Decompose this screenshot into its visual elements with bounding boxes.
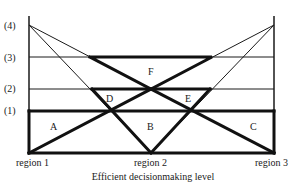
- area-label-e: E: [185, 93, 191, 104]
- level-label-2: (2): [4, 83, 16, 95]
- region-label-1: region 1: [16, 157, 49, 168]
- region-label-3: region 3: [255, 157, 288, 168]
- area-label-f: F: [148, 66, 154, 77]
- level-label-3: (3): [4, 52, 16, 64]
- decisionmaking-level-diagram: (4) (3) (2) (1) A B C D E F region 1 reg…: [0, 0, 303, 191]
- area-label-c: C: [250, 121, 257, 132]
- thick-diag-region1-to-f: [29, 89, 151, 153]
- area-label-d: D: [106, 93, 113, 104]
- level-label-4: (4): [4, 20, 16, 32]
- level-label-1: (1): [4, 105, 16, 117]
- x-axis-title: Efficient decisionmaking level: [92, 171, 215, 182]
- area-label-a: A: [50, 121, 58, 132]
- region-label-2: region 2: [134, 157, 167, 168]
- thick-diag-d-to-region2: [92, 89, 151, 153]
- thick-diag-e-to-region2: [151, 89, 210, 153]
- area-label-b: B: [147, 121, 154, 132]
